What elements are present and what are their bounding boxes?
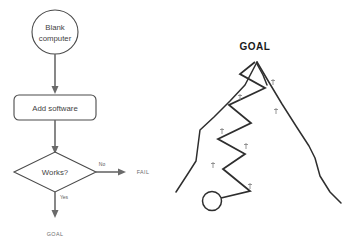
- mountain-peak-label: GOAL: [240, 41, 271, 52]
- mountain-panel: GOAL: [176, 41, 341, 211]
- branch-no-label: No: [99, 161, 106, 167]
- flowchart-decision-node[interactable]: Works?: [14, 152, 96, 192]
- arrow-head-down: [52, 86, 59, 94]
- flowchart-process-node[interactable]: Add software: [14, 95, 96, 120]
- mountain-left-slope: [176, 62, 257, 192]
- start-node-label-line2: computer: [39, 34, 72, 43]
- process-node-label: Add software: [32, 104, 78, 113]
- arrow-head-right: [118, 169, 126, 176]
- mountain-switchback-trail: [218, 62, 265, 198]
- goal-terminal-label: GOAL: [47, 231, 64, 237]
- start-node-label-line1: Blank: [45, 23, 65, 32]
- flowchart-panel: Blank computer Add software Works? No: [14, 10, 149, 237]
- decision-node-label: Works?: [42, 168, 69, 177]
- branch-yes-label: Yes: [60, 194, 69, 200]
- connector-start-to-process: [52, 54, 59, 94]
- footprint-marker: [244, 143, 248, 149]
- mountain-ridge-spur: [257, 64, 267, 85]
- arrow-head-down: [52, 210, 59, 218]
- flowchart-start-node[interactable]: Blank computer: [32, 10, 78, 54]
- footprint-marker: [271, 79, 275, 85]
- trail-markers-group: [211, 79, 278, 189]
- fail-terminal-label: FAIL: [137, 169, 150, 175]
- trail-start-circle[interactable]: [203, 192, 222, 211]
- footprint-marker: [248, 183, 252, 189]
- footprint-marker: [274, 108, 278, 114]
- footprint-marker: [211, 162, 215, 168]
- branch-no: No FAIL: [96, 161, 149, 176]
- connector-process-to-decision: [52, 120, 59, 154]
- branch-yes: Yes GOAL: [47, 192, 69, 237]
- diagram-canvas: Blank computer Add software Works? No: [0, 0, 361, 250]
- start-node-circle: [32, 10, 78, 54]
- mountain-right-slope: [257, 62, 341, 203]
- footprint-marker: [220, 128, 224, 134]
